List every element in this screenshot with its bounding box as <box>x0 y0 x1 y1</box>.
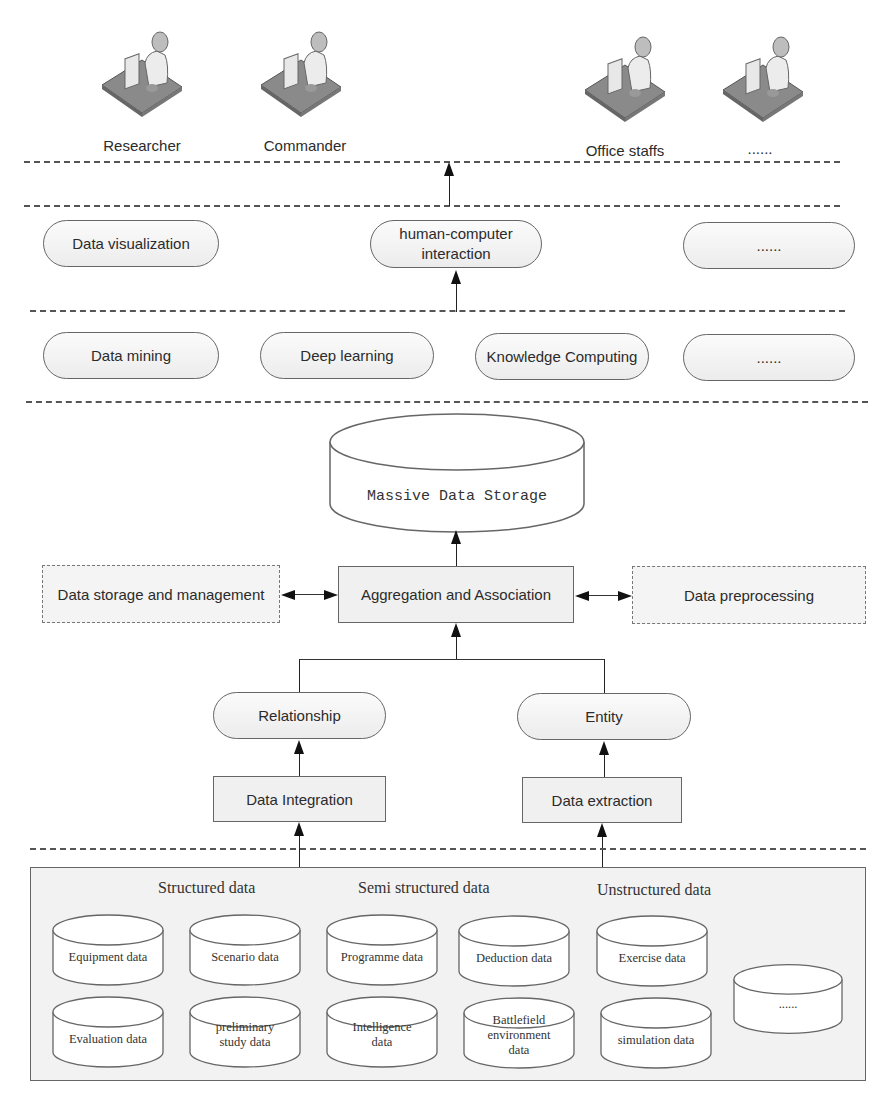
user-at-computer-icon <box>718 30 808 130</box>
layer-separator <box>30 848 866 850</box>
user-label-office-staffs: Office staffs <box>570 142 680 159</box>
data-preprocessing: Data preprocessing <box>632 566 866 624</box>
user-label-commander: Commander <box>250 137 360 154</box>
data-source-label: preliminary study data <box>189 1020 301 1050</box>
data-source-more: ...... <box>733 963 843 1035</box>
data-integration: Data Integration <box>213 776 386 822</box>
app-more: ...... <box>683 222 855 269</box>
data-source-label: Intelligence data <box>326 1020 438 1050</box>
data-source-simulation: simulation data <box>600 997 712 1069</box>
data-source-battlefield-environment: Battlefield environment data <box>463 997 575 1069</box>
data-source-label: Exercise data <box>596 951 708 966</box>
data-source-evaluation: Evaluation data <box>52 996 164 1068</box>
user-commander <box>256 25 346 125</box>
arrow-left-icon <box>281 590 295 600</box>
category-structured: Structured data <box>158 879 255 897</box>
connector-line <box>299 752 300 778</box>
user-label-researcher: Researcher <box>92 137 192 154</box>
analysis-deep-learning: Deep learning <box>260 332 434 379</box>
storage-label: Massive Data Storage <box>328 489 586 504</box>
arrow-right-icon <box>324 590 338 600</box>
arrow-right-icon <box>618 591 632 601</box>
connector-line <box>299 659 605 660</box>
connector-line <box>456 636 457 660</box>
user-at-computer-icon <box>580 30 670 130</box>
layer-separator <box>26 401 868 403</box>
arrow-up-icon <box>599 741 609 755</box>
data-source-deduction: Deduction data <box>458 915 570 987</box>
arrow-up-icon <box>451 270 461 284</box>
data-source-label: Evaluation data <box>52 1032 164 1047</box>
data-source-label: simulation data <box>600 1033 712 1048</box>
user-at-computer-icon <box>97 25 187 125</box>
connector-line <box>299 834 300 869</box>
data-source-exercise: Exercise data <box>596 915 708 987</box>
layer-separator <box>24 161 840 163</box>
entity-node: Entity <box>517 693 691 740</box>
relationship-node: Relationship <box>213 692 386 739</box>
layer-separator <box>30 310 845 312</box>
connector-line <box>604 753 605 779</box>
data-source-programme: Programme data <box>326 914 438 986</box>
analysis-more: ...... <box>683 334 855 381</box>
data-source-label: Battlefield environment data <box>463 1013 575 1058</box>
connector-line <box>299 659 300 692</box>
data-source-equipment: Equipment data <box>52 914 164 986</box>
arrow-up-icon <box>597 823 607 837</box>
user-researcher <box>97 25 187 125</box>
category-semi-structured: Semi structured data <box>358 879 490 897</box>
arrow-up-icon <box>451 623 461 637</box>
user-label-more: ...... <box>735 140 785 157</box>
connector-line <box>449 174 450 206</box>
analysis-data-mining: Data mining <box>43 332 219 379</box>
app-data-visualization: Data visualization <box>43 220 219 267</box>
layer-separator <box>24 205 840 207</box>
connector-line <box>602 835 603 869</box>
arrow-up-icon <box>444 162 454 176</box>
aggregation-and-association: Aggregation and Association <box>338 566 574 623</box>
data-extraction: Data extraction <box>522 777 682 823</box>
data-source-scenario: Scenario data <box>189 914 301 986</box>
user-more <box>718 30 808 130</box>
user-office-staffs <box>580 30 670 130</box>
arrow-left-icon <box>575 591 589 601</box>
arrow-up-icon <box>294 822 304 836</box>
app-human-computer-interaction: human-computer interaction <box>370 220 542 268</box>
data-source-intelligence: Intelligence data <box>326 996 438 1068</box>
category-unstructured: Unstructured data <box>597 881 711 899</box>
arrow-up-icon <box>451 530 461 544</box>
data-source-label: Deduction data <box>458 951 570 966</box>
connector-line <box>456 282 457 312</box>
connector-line <box>604 659 605 693</box>
database-cylinder-icon <box>328 412 586 534</box>
data-source-label: Programme data <box>326 950 438 965</box>
analysis-knowledge-computing: Knowledge Computing <box>475 333 649 380</box>
data-source-label: Equipment data <box>52 950 164 965</box>
data-source-preliminary-study: preliminary study data <box>189 996 301 1068</box>
arrow-up-icon <box>294 740 304 754</box>
data-source-label: ...... <box>733 997 843 1012</box>
data-storage-and-management: Data storage and management <box>42 565 280 623</box>
data-source-label: Scenario data <box>189 950 301 965</box>
user-at-computer-icon <box>256 25 346 125</box>
massive-data-storage: Massive Data Storage <box>328 412 586 534</box>
